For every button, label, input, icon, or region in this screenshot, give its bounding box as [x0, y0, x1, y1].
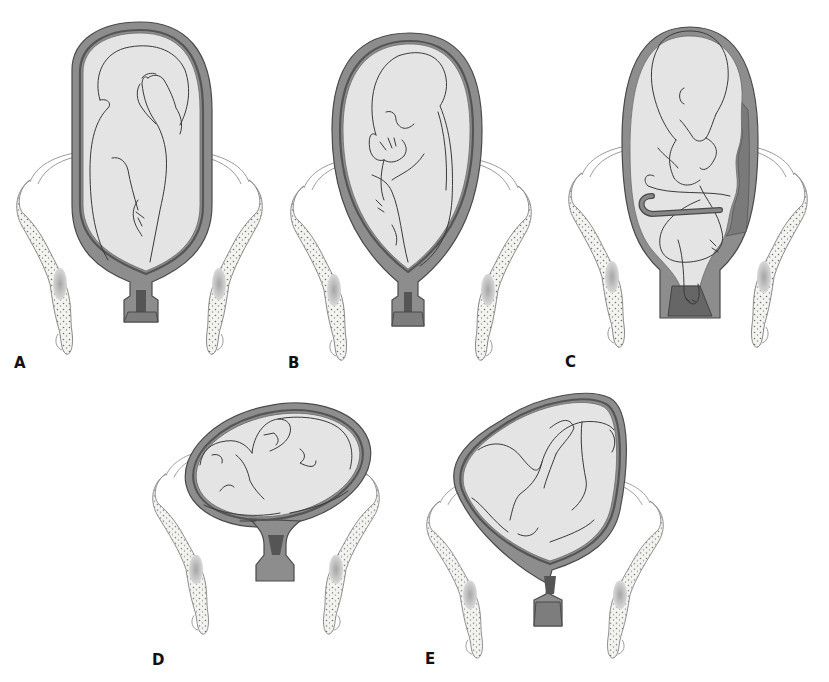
panel-e-illustration: [410, 380, 690, 682]
panel-c-illustration: [550, 0, 829, 370]
uterus: [72, 22, 212, 322]
panel-d-transverse-lie: D: [140, 395, 410, 682]
uterus: [332, 33, 482, 326]
panel-label: B: [288, 354, 299, 372]
pelvis-left-bone: [17, 152, 80, 354]
panel-label: C: [565, 353, 576, 371]
panel-c-footling-breech: C: [550, 0, 829, 370]
panel-label: D: [152, 651, 164, 669]
panel-a-frank-breech: A: [0, 0, 280, 370]
pelvis-left-bone: [569, 145, 632, 347]
panel-d-illustration: [140, 395, 410, 682]
pelvis-right-bone: [468, 158, 531, 360]
panel-label: A: [14, 354, 26, 372]
panel-label: E: [425, 650, 435, 668]
panel-b-illustration: [280, 0, 550, 370]
panel-e-oblique-lie: E: [410, 380, 690, 682]
panel-b-complete-breech: B: [280, 0, 550, 370]
panel-a-illustration: [0, 0, 280, 370]
uterus: [622, 27, 758, 318]
uterus: [454, 393, 627, 626]
